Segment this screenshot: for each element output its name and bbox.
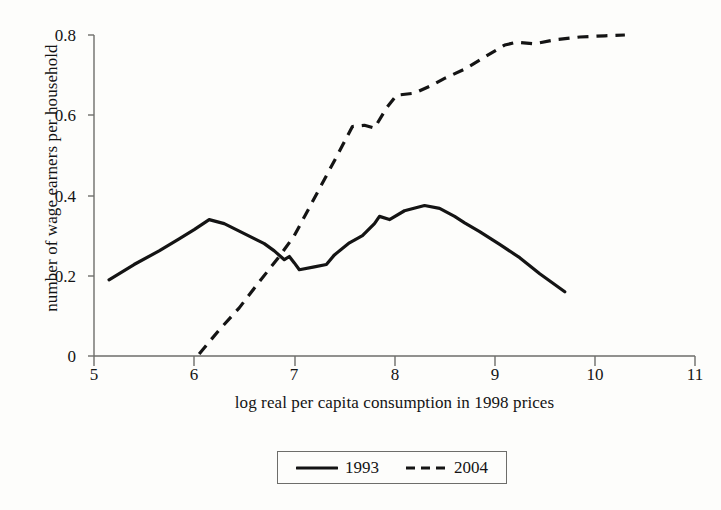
series-line-2004 xyxy=(199,35,625,354)
legend-swatch-dashed xyxy=(405,463,447,473)
legend-label: 2004 xyxy=(454,459,488,476)
x-axis-label: log real per capita consumption in 1998 … xyxy=(94,393,695,413)
legend-entry-1993: 1993 xyxy=(296,459,379,476)
legend: 1993 2004 xyxy=(277,451,507,484)
legend-label: 1993 xyxy=(345,459,379,476)
chart-figure: number of wage earners per household 0.8… xyxy=(0,0,721,510)
legend-swatch-solid xyxy=(296,463,338,473)
plot-area xyxy=(0,0,721,510)
series-line-1993 xyxy=(109,206,565,292)
legend-entry-2004: 2004 xyxy=(405,459,488,476)
